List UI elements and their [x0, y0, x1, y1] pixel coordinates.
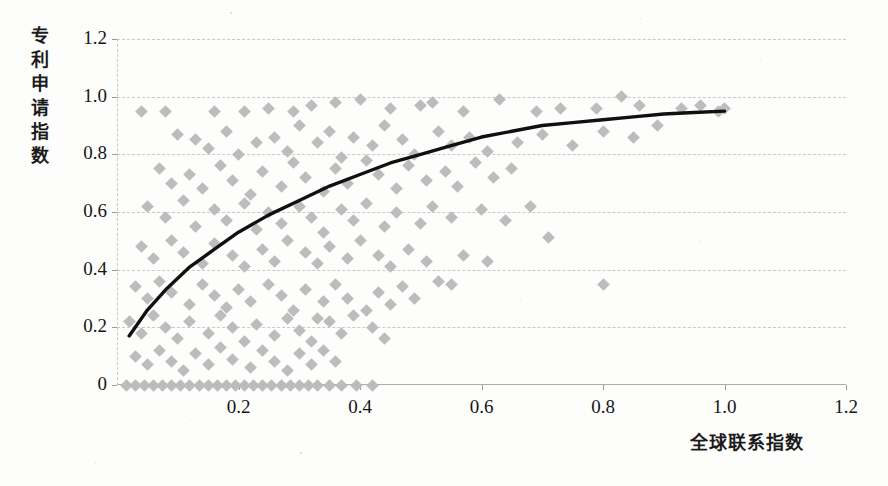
y-tick-label: 0	[55, 373, 107, 395]
x-axis-tick	[725, 385, 726, 390]
x-tick-label: 1.0	[695, 396, 755, 418]
scan-speck	[190, 420, 191, 421]
x-tick-label: 0.2	[209, 396, 269, 418]
scatter-chart: 专利申请指数 00.20.40.60.81.01.2 0.20.40.60.81…	[0, 0, 888, 486]
plot-area	[117, 39, 846, 385]
x-tick-label: 0.6	[452, 396, 512, 418]
scan-speck	[300, 452, 302, 454]
x-tick-label: 0.8	[573, 396, 633, 418]
y-axis-title-char-2: 申	[26, 72, 54, 96]
y-tick-label: 1.0	[55, 85, 107, 107]
y-tick-label: 1.2	[55, 27, 107, 49]
y-axis-title-char-0: 专	[26, 24, 54, 48]
y-axis-title-char-3: 请	[26, 96, 54, 120]
x-axis-tick	[482, 385, 483, 390]
y-tick-label: 0.6	[55, 200, 107, 222]
y-axis-title: 专利申请指数	[26, 24, 54, 168]
x-axis-tick	[846, 385, 847, 390]
y-axis-tick	[112, 385, 117, 386]
x-axis-tick	[603, 385, 604, 390]
scan-speck	[640, 18, 641, 19]
y-tick-label: 0.4	[55, 258, 107, 280]
scan-speck	[95, 463, 96, 464]
y-axis-title-char-5: 数	[26, 144, 54, 168]
y-tick-label: 0.8	[55, 142, 107, 164]
y-axis-title-char-4: 指	[26, 120, 54, 144]
trendline	[117, 39, 846, 385]
x-axis-title: 全球联系指数	[690, 428, 804, 454]
y-tick-label: 0.2	[55, 315, 107, 337]
scan-speck	[230, 12, 232, 14]
x-tick-label: 1.2	[816, 396, 876, 418]
x-tick-label: 0.4	[330, 396, 390, 418]
y-axis-title-char-1: 利	[26, 48, 54, 72]
